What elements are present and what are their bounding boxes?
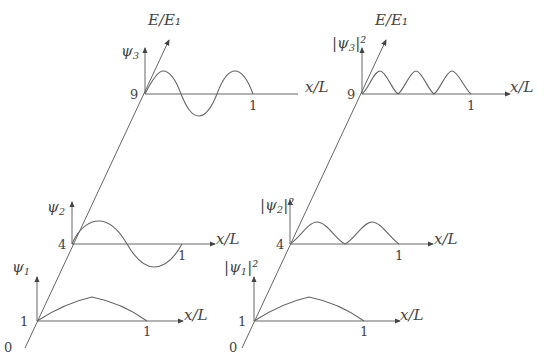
- x-tick-1: 1: [143, 324, 151, 339]
- x-axis-label: x/L: [434, 230, 458, 248]
- energy-value-1: 1: [238, 314, 246, 329]
- x-axis-label: x/L: [400, 306, 424, 324]
- psi3-label: ψ3: [121, 42, 139, 61]
- psi1-label: ψ1: [12, 258, 30, 277]
- level-2: ψ2 4 x/L 1: [47, 198, 240, 267]
- x-axis-label: x/L: [510, 78, 534, 96]
- x-tick-1: 1: [178, 248, 186, 263]
- psi3-sq-curve: [362, 71, 471, 94]
- energy-value-9: 9: [347, 87, 355, 102]
- psi2-label: ψ2: [47, 198, 65, 217]
- psi3-sq-label: |ψ3|²: [332, 34, 366, 53]
- energy-axis-label: E/E₁: [147, 11, 181, 29]
- psi3-curve: [145, 71, 253, 116]
- energy-axis: [25, 40, 169, 348]
- energy-axis-label: E/E₁: [374, 11, 408, 29]
- origin-label: 0: [229, 340, 237, 355]
- psi1-sq-label: |ψ1|²: [224, 258, 258, 277]
- psi2-sq-label: |ψ2|²: [260, 196, 294, 215]
- x-tick-1: 1: [467, 98, 475, 113]
- energy-level-diagram: E/E₁ 0 ψ1 1 x/L 1 ψ2 4 x/L 1 ψ3 9: [0, 0, 544, 356]
- level-3: |ψ3|² 9 x/L x/L 1: [305, 34, 534, 113]
- psi2-sq-curve: [290, 222, 399, 244]
- x-axis-label: x/L: [216, 230, 240, 248]
- level-2: |ψ2|² 4 x/L 1: [260, 196, 458, 263]
- psi1-curve: [37, 297, 147, 321]
- energy-value-9: 9: [130, 87, 138, 102]
- probability-density-panel: E/E₁ 0 |ψ1|² 1 x/L 1 |ψ2|² 4 x/L 1 |ψ3|²: [224, 11, 534, 355]
- x-tick-1: 1: [395, 248, 403, 263]
- energy-value-4: 4: [276, 237, 284, 252]
- x-axis-label-left-panel-3: x/L: [305, 78, 329, 96]
- energy-value-1: 1: [20, 314, 28, 329]
- psi1-sq-curve: [254, 297, 364, 321]
- level-1: |ψ1|² 1 x/L 1: [224, 258, 424, 339]
- level-3: ψ3 9 1: [121, 42, 298, 116]
- origin-label: 0: [4, 340, 12, 355]
- level-1: ψ1 1 x/L 1: [12, 258, 208, 339]
- x-tick-1: 1: [360, 324, 368, 339]
- x-tick-1: 1: [249, 98, 257, 113]
- energy-value-4: 4: [58, 237, 66, 252]
- x-axis-label: x/L: [184, 306, 208, 324]
